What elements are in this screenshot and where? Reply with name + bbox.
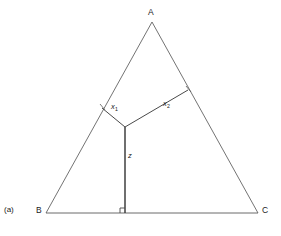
figure-caption: (a) [4,206,14,214]
triangle-outline [46,22,258,213]
triangle-side-AB [46,22,152,213]
vertex-label-b: B [36,206,42,215]
segment-label-x1: x1 [111,103,118,111]
segment-label-z: z [128,152,132,160]
vertex-label-c: C [262,206,268,215]
segment-label-x1-subscript: 1 [115,106,118,112]
triangle-side-AC [152,22,258,213]
figure-container: A B C x1 x2 z (a) [0,0,281,236]
branch-x2-segment [125,90,188,127]
right-angle-mark-ab [100,104,105,110]
triangle-diagram-svg [0,0,281,236]
segment-label-x2-subscript: 2 [167,103,170,109]
vertex-label-a: A [148,8,154,17]
segment-label-x2: x2 [163,100,170,108]
